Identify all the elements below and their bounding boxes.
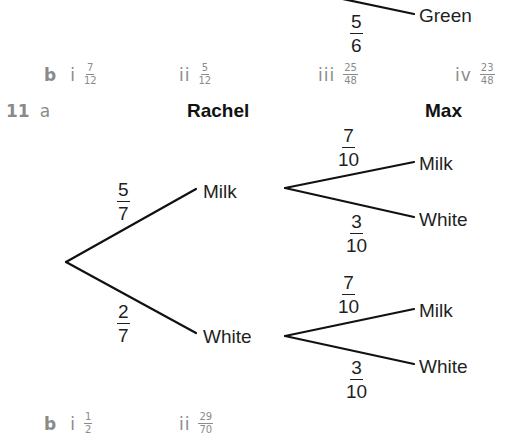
numerator: 23 [480, 63, 495, 75]
numerator: 5 [117, 180, 130, 202]
node-rachel-milk: Milk [203, 182, 237, 201]
prob-denominator: 6 [351, 34, 362, 55]
prob-max-white-2: 3 10 [346, 358, 367, 401]
answer-10b-i: b i 7 12 [44, 63, 97, 86]
denominator: 7 [118, 202, 129, 223]
numerator: 25 [343, 63, 358, 75]
denominator: 10 [338, 295, 359, 316]
numerator: 7 [342, 273, 355, 295]
denominator: 10 [346, 380, 367, 401]
denominator: 10 [338, 148, 359, 169]
roman-label: ii [179, 65, 190, 85]
answer-fraction: 1 2 [84, 412, 92, 435]
denominator: 10 [346, 234, 367, 255]
header-rachel: Rachel [187, 101, 249, 120]
roman-label: i [70, 65, 76, 85]
answer-fraction: 5 12 [198, 63, 211, 86]
header-max: Max [425, 101, 462, 120]
answer-10b-iii: iii 25 48 [318, 63, 358, 86]
prob-numerator: 5 [350, 12, 363, 34]
roman-label: iii [318, 65, 335, 85]
numerator: 1 [84, 412, 92, 424]
prob-max-milk-2: 7 10 [338, 273, 359, 316]
part-label: b [44, 65, 56, 85]
roman-label: ii [179, 414, 190, 434]
numerator: 2 [117, 302, 130, 324]
denominator: 48 [481, 75, 494, 86]
answer-10b-ii: ii 5 12 [179, 63, 211, 86]
numerator: 7 [86, 63, 94, 75]
branch-root-milk [66, 189, 196, 262]
answer-fraction: 23 48 [480, 63, 495, 86]
node-max-white-2: White [419, 357, 468, 376]
prob-max-milk-1: 7 10 [338, 126, 359, 169]
denominator: 48 [344, 75, 357, 86]
denominator: 70 [199, 424, 212, 435]
denominator: 7 [118, 324, 129, 345]
node-rachel-white: White [203, 327, 252, 346]
part-label: b [44, 414, 56, 434]
answer-fraction: 29 70 [198, 412, 213, 435]
roman-label: i [70, 414, 76, 434]
question-part-label: a [40, 101, 50, 121]
denominator: 12 [198, 75, 211, 86]
roman-label: iv [455, 65, 472, 85]
answer-fraction: 7 12 [84, 63, 97, 86]
question-number: 11a [6, 101, 50, 121]
prob-max-white-1: 3 10 [346, 212, 367, 255]
branch-root-white [66, 262, 196, 333]
node-max-white-1: White [419, 210, 468, 229]
prob-green: 5 6 [350, 12, 363, 55]
denominator: 12 [84, 75, 97, 86]
numerator: 7 [342, 126, 355, 148]
answer-fraction: 25 48 [343, 63, 358, 86]
question-number-label: 11 [6, 101, 30, 121]
numerator: 3 [350, 212, 363, 234]
denominator: 2 [85, 424, 91, 435]
prob-rachel-milk: 5 7 [117, 180, 130, 223]
node-green: Green [419, 6, 472, 25]
prob-rachel-white: 2 7 [117, 302, 130, 345]
numerator: 5 [201, 63, 209, 75]
numerator: 3 [350, 358, 363, 380]
node-max-milk-1: Milk [419, 154, 453, 173]
answer-11b-ii: ii 29 70 [179, 412, 213, 435]
answer-11b-i: b i 1 2 [44, 412, 92, 435]
answer-10b-iv: iv 23 48 [455, 63, 495, 86]
numerator: 29 [198, 412, 213, 424]
node-max-milk-2: Milk [419, 301, 453, 320]
